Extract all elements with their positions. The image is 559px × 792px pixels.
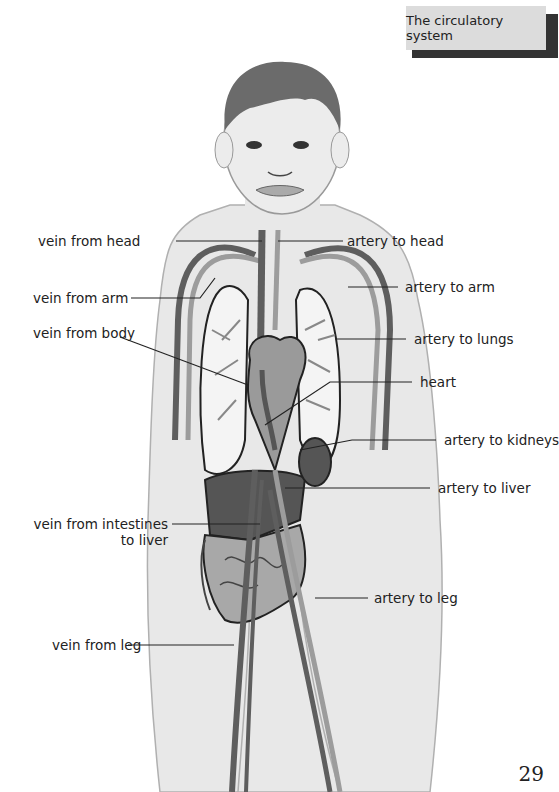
label-vein-from-arm: vein from arm xyxy=(33,290,128,306)
label-heart: heart xyxy=(420,374,456,390)
artery-head xyxy=(275,230,278,330)
label-artery-to-lungs: artery to lungs xyxy=(414,331,514,347)
label-vein-from-intestines: vein from intestines to liver xyxy=(10,516,168,548)
right-eye xyxy=(293,141,309,149)
label-vein-from-intestines-line2: to liver xyxy=(10,532,168,548)
label-artery-to-head: artery to head xyxy=(347,233,444,249)
label-vein-from-intestines-line1: vein from intestines xyxy=(10,516,168,532)
label-artery-to-liver: artery to liver xyxy=(438,480,530,496)
left-ear xyxy=(215,132,233,168)
label-artery-to-leg: artery to leg xyxy=(374,590,458,606)
label-vein-from-head: vein from head xyxy=(38,233,140,249)
right-ear xyxy=(331,132,349,168)
label-vein-from-leg: vein from leg xyxy=(52,637,141,653)
lung-left xyxy=(200,286,248,474)
left-eye xyxy=(246,141,262,149)
page-number: 29 xyxy=(519,762,544,786)
label-vein-from-body: vein from body xyxy=(33,325,135,341)
label-artery-to-arm: artery to arm xyxy=(405,279,495,295)
label-artery-to-kidneys: artery to kidneys xyxy=(444,432,559,448)
